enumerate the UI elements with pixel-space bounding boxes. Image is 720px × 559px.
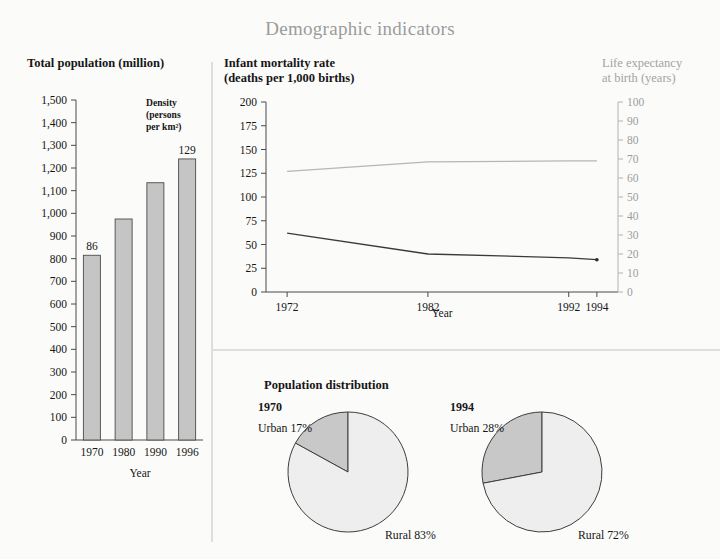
line-series-infant-mortality [287, 233, 597, 260]
infographic-page: Demographic indicators Total population … [0, 0, 720, 559]
bar-y-tick-label: 1,000 [41, 207, 67, 220]
line-axes [266, 102, 618, 292]
pie-1970-urban-label: Urban 17% [258, 421, 312, 435]
line-x-axis-title: Year [431, 307, 452, 319]
bar-1970 [83, 255, 100, 440]
line-y2-tick-label: 10 [627, 267, 639, 279]
line-y2-ticks: 0102030405060708090100 [618, 96, 645, 298]
line-y2-tick-label: 70 [627, 153, 639, 165]
population-distribution-heading: Population distribution [264, 378, 389, 393]
page-title: Demographic indicators [0, 18, 720, 40]
pie-chart-1994: 1994 Urban 28% Rural 72% [450, 400, 660, 550]
vertical-divider [211, 62, 213, 542]
bar-x-tick-label: 1990 [144, 446, 167, 458]
line-y2-tick-label: 90 [627, 115, 639, 127]
line-series-group [287, 161, 599, 262]
density-annotation: Density (persons per km²) [146, 97, 181, 133]
bar-y-tick-label: 100 [50, 411, 68, 423]
line-y-tick-label: 0 [251, 286, 257, 298]
line-y2-tick-label: 100 [627, 96, 645, 108]
line-chart-heading-line1: Infant mortality rate [224, 56, 424, 71]
bar-1990 [147, 183, 164, 440]
line-chart-heading: Infant mortality rate (deaths per 1,000 … [224, 56, 424, 85]
line-y2-tick-label: 20 [627, 248, 639, 260]
bar-y-tick-label: 0 [61, 434, 67, 446]
line-y-ticks: 0255075100125150175200 [240, 96, 266, 298]
line-y2-tick-label: 50 [627, 191, 639, 203]
line-y-tick-label: 125 [240, 167, 258, 179]
horizontal-divider [211, 349, 720, 351]
bar-x-ticks: 1970198019901996 [80, 446, 199, 458]
bar-x-tick-label: 1996 [176, 446, 199, 458]
line-y2-tick-label: 40 [627, 210, 639, 222]
bar-value-label-1996: 129 [179, 144, 197, 156]
line-series-life-expectancy [287, 161, 597, 171]
line-x-tick-label: 1992 [557, 301, 580, 313]
line-y-tick-label: 175 [240, 120, 258, 132]
line-y2-tick-label: 0 [627, 286, 633, 298]
pie-chart-1970: 1970 Urban 17% Rural 83% [258, 400, 458, 550]
bar-y-tick-label: 200 [50, 389, 68, 401]
life-expectancy-heading-line2: at birth (years) [602, 71, 717, 86]
line-chart-heading-line2: (deaths per 1,000 births) [224, 71, 424, 86]
mortality-life-expectancy-line-chart: 0255075100125150175200 01020304050607080… [218, 92, 708, 322]
bar-y-tick-label: 600 [50, 298, 68, 310]
bar-y-tick-label: 1,400 [41, 117, 67, 130]
pie-1994-rural-label: Rural 72% [578, 528, 629, 542]
life-expectancy-heading-line1: Life expectancy [602, 56, 717, 71]
bar-1996 [179, 159, 196, 440]
bar-value-label-1970: 86 [86, 240, 98, 252]
line-y-tick-label: 75 [246, 215, 258, 227]
line-endpoint-marker [595, 258, 599, 262]
density-annot-line2: (persons [146, 109, 181, 121]
pie-1970-year: 1970 [258, 400, 282, 415]
bar-y-tick-label: 1,500 [41, 94, 67, 107]
pie-1970-svg: Urban 17% Rural 83% [258, 400, 458, 550]
bar-y-tick-label: 1,200 [41, 162, 67, 175]
line-y-tick-label: 50 [246, 239, 258, 251]
bar-y-tick-label: 800 [50, 253, 68, 265]
life-expectancy-axis-heading: Life expectancy at birth (years) [602, 56, 717, 86]
pie-1994-urban-label: Urban 28% [450, 421, 504, 435]
bar-1980 [115, 219, 132, 440]
line-y2-tick-label: 60 [627, 172, 639, 184]
bar-y-tick-label: 1,300 [41, 139, 67, 152]
line-x-tick-label: 1972 [276, 301, 299, 313]
bar-chart-heading: Total population (million) [27, 56, 164, 71]
bar-y-tick-label: 900 [50, 230, 68, 242]
bar-y-tick-label: 500 [50, 321, 68, 333]
bar-y-tick-label: 400 [50, 343, 68, 355]
line-y2-tick-label: 30 [627, 229, 639, 241]
line-y2-tick-label: 80 [627, 134, 639, 146]
line-y-tick-label: 150 [240, 144, 258, 156]
line-x-tick-label: 1994 [585, 301, 608, 313]
bar-chart-svg: 01002003004005006007008009001,0001,1001,… [20, 92, 210, 492]
line-y-tick-label: 25 [246, 262, 258, 274]
bar-series [83, 159, 195, 440]
bar-y-tick-label: 700 [50, 275, 68, 287]
line-chart-svg: 0255075100125150175200 01020304050607080… [218, 92, 708, 322]
density-annot-line1: Density [146, 97, 177, 108]
line-y-tick-label: 100 [240, 191, 258, 203]
total-population-bar-chart: 01002003004005006007008009001,0001,1001,… [20, 92, 210, 492]
bar-y-tick-label: 1,100 [41, 185, 67, 198]
bar-x-tick-label: 1980 [112, 446, 135, 458]
bar-x-tick-label: 1970 [80, 446, 103, 458]
bar-x-axis-title: Year [129, 467, 150, 479]
pie-1970-rural-label: Rural 83% [385, 528, 436, 542]
bar-y-tick-label: 300 [50, 366, 68, 378]
bar-y-ticks: 01002003004005006007008009001,0001,1001,… [41, 94, 76, 446]
pie-1994-year: 1994 [450, 400, 474, 415]
density-annot-line3: per km²) [146, 121, 181, 133]
line-y-tick-label: 200 [240, 96, 258, 108]
pie-1994-svg: Urban 28% Rural 72% [450, 400, 660, 550]
